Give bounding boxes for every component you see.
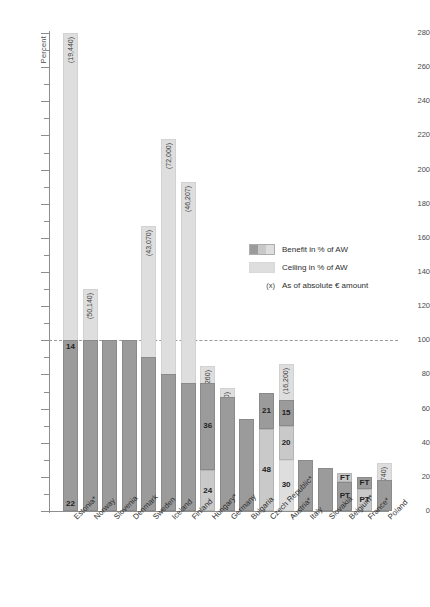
segment-value-label: FT — [357, 479, 372, 487]
segment-value-label: 36 — [200, 422, 215, 430]
legend-note-marker: (x) — [249, 280, 275, 291]
segment-value-label: 30 — [279, 481, 294, 489]
segment-value-label: 21 — [259, 407, 274, 415]
ceiling-value-label: (16,200) — [282, 368, 289, 394]
segment-value-label: 15 — [279, 409, 294, 417]
x-axis-labels: Estonia*NorwaySloveniaDenmarkSwedenIcela… — [0, 511, 430, 607]
bar-segment — [122, 340, 137, 511]
legend-swatch-benefit — [249, 244, 275, 255]
legend-label: Benefit in % of AW — [282, 244, 348, 255]
bar-segment — [102, 340, 117, 511]
segment-value-label: FT — [337, 474, 352, 482]
legend-label: As of absolute € amount — [282, 280, 368, 291]
bar-segment — [83, 340, 98, 511]
segment-value-label: 24 — [200, 487, 215, 495]
segment-value-label: 48 — [259, 466, 274, 474]
bar-segment — [141, 357, 156, 511]
legend-entry: Benefit in % of AW — [249, 244, 424, 255]
ceiling-value-label: (19,440) — [67, 37, 74, 63]
chart-legend: Benefit in % of AWCeiling in % of AW(x)A… — [249, 244, 424, 298]
chart-container: Percent 02040608010012014016018020022024… — [0, 0, 430, 607]
bar-segment — [181, 383, 196, 511]
ceiling-value-label: (46,207) — [184, 186, 191, 212]
bar-segment — [63, 340, 78, 511]
bar-segment — [318, 468, 333, 511]
segment-value-label: 20 — [279, 439, 294, 447]
segment-value-label-top: 14 — [63, 343, 78, 351]
legend-entry: (x)As of absolute € amount — [249, 280, 424, 291]
legend-label: Ceiling in % of AW — [282, 262, 348, 273]
ceiling-value-label: (72,000) — [165, 143, 172, 169]
ceiling-value-label: (50,140) — [86, 293, 93, 319]
legend-entry: Ceiling in % of AW — [249, 262, 424, 273]
ceiling-value-label: (43,070) — [145, 230, 152, 256]
legend-swatch-ceiling — [249, 262, 275, 273]
segment-value-label-bottom: 22 — [63, 500, 78, 508]
bar-segment — [161, 374, 176, 511]
